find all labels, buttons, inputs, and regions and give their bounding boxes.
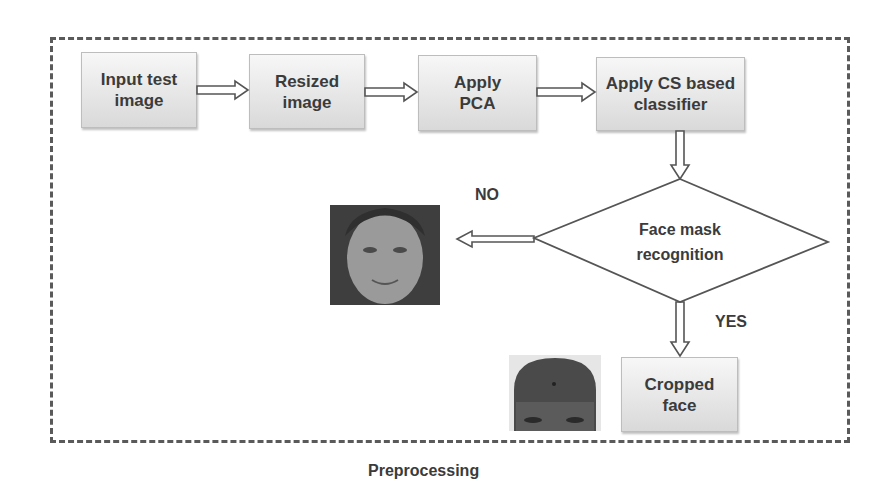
arrow-input-to-resize [197, 81, 248, 99]
diagram-caption: Preprocessing [368, 462, 479, 480]
face-image-cropped [509, 355, 601, 431]
face-image-full [330, 205, 440, 305]
arrow-resize-to-pca [365, 83, 417, 101]
arrow-decision-no [457, 231, 534, 247]
arrow-decision-yes [671, 302, 689, 356]
decision-label-line2: recognition [636, 246, 723, 263]
decision-label: Face mask recognition [590, 217, 770, 267]
yes-branch-label: YES [715, 313, 747, 331]
decision-label-line1: Face mask [639, 221, 721, 238]
no-branch-label: NO [475, 186, 499, 204]
arrow-pca-to-classifier [537, 83, 595, 101]
arrow-classifier-to-decision [671, 131, 689, 179]
